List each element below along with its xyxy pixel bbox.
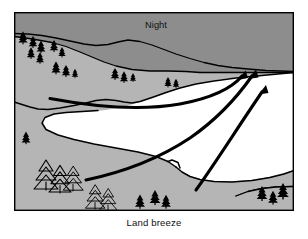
- night-label: Night: [145, 19, 167, 30]
- diagram-canvas: Night: [0, 0, 308, 239]
- scene-group: [14, 12, 294, 211]
- figure-caption: Land breeze: [0, 217, 308, 228]
- land-breeze-figure: Night: [0, 0, 308, 239]
